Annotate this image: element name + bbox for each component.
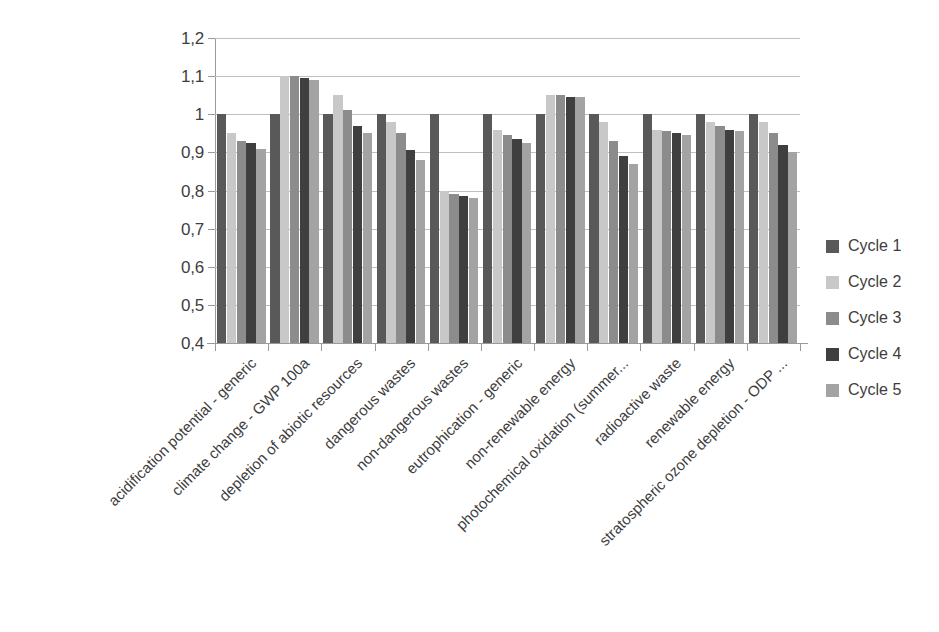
bar[interactable]: [270, 114, 279, 343]
bar[interactable]: [522, 143, 531, 343]
bar[interactable]: [662, 131, 671, 343]
bar[interactable]: [643, 114, 652, 343]
bar[interactable]: [735, 131, 744, 343]
legend-item[interactable]: Cycle 2: [826, 264, 936, 300]
x-tick-mark: [694, 343, 695, 351]
bar[interactable]: [333, 95, 342, 343]
bar[interactable]: [217, 114, 226, 343]
legend-swatch-icon: [826, 348, 839, 361]
legend-label: Cycle 4: [848, 346, 901, 362]
y-tick-label: 0,7: [140, 221, 204, 238]
bar[interactable]: [599, 122, 608, 343]
x-axis-label: climate change - GWP 100a: [0, 355, 312, 632]
bar[interactable]: [589, 114, 598, 343]
bar[interactable]: [290, 76, 299, 343]
x-tick-mark: [268, 343, 269, 351]
x-tick-mark: [640, 343, 641, 351]
bar[interactable]: [672, 133, 681, 343]
legend-item[interactable]: Cycle 1: [826, 228, 936, 264]
bar[interactable]: [493, 130, 502, 344]
bar[interactable]: [575, 97, 584, 343]
y-tick-mark: [208, 76, 215, 77]
bar[interactable]: [323, 114, 332, 343]
bar[interactable]: [377, 114, 386, 343]
bar-group: [589, 38, 638, 343]
bar[interactable]: [536, 114, 545, 343]
x-tick-mark: [375, 343, 376, 351]
legend-label: Cycle 1: [848, 238, 901, 254]
bar[interactable]: [246, 143, 255, 343]
y-tick-mark: [208, 305, 215, 306]
y-axis: 1,21,110,90,80,70,60,50,4: [140, 26, 204, 352]
y-tick-mark: [208, 343, 215, 344]
bar[interactable]: [483, 114, 492, 343]
bar[interactable]: [556, 95, 565, 343]
bar[interactable]: [256, 149, 265, 343]
bar[interactable]: [715, 126, 724, 343]
bar[interactable]: [725, 130, 734, 344]
bar[interactable]: [416, 160, 425, 343]
legend-item[interactable]: Cycle 4: [826, 336, 936, 372]
bar[interactable]: [237, 141, 246, 343]
bar-group: [483, 38, 532, 343]
bar[interactable]: [503, 135, 512, 343]
bar[interactable]: [749, 114, 758, 343]
bar[interactable]: [778, 145, 787, 343]
bar[interactable]: [449, 194, 458, 343]
bar[interactable]: [440, 191, 449, 344]
x-tick-mark: [321, 343, 322, 351]
y-tick-mark: [208, 38, 215, 39]
x-tick-mark: [800, 343, 801, 351]
y-tick-label: 1: [140, 106, 204, 123]
bar[interactable]: [609, 141, 618, 343]
bar-group: [696, 38, 745, 343]
legend-item[interactable]: Cycle 3: [826, 300, 936, 336]
bar[interactable]: [469, 198, 478, 343]
bar[interactable]: [343, 110, 352, 343]
y-tick-label: 1,2: [140, 30, 204, 47]
legend-item[interactable]: Cycle 5: [826, 372, 936, 408]
bar[interactable]: [629, 164, 638, 343]
bar-group: [749, 38, 798, 343]
bar[interactable]: [759, 122, 768, 343]
legend-swatch-icon: [826, 276, 839, 289]
bar[interactable]: [512, 139, 521, 343]
bar-group: [323, 38, 372, 343]
legend-label: Cycle 5: [848, 382, 901, 398]
bar[interactable]: [459, 196, 468, 343]
legend-swatch-icon: [826, 240, 839, 253]
y-tick-label: 0,6: [140, 259, 204, 276]
bar[interactable]: [696, 114, 705, 343]
bar[interactable]: [227, 133, 236, 343]
bar[interactable]: [788, 152, 797, 343]
bar-group: [430, 38, 479, 343]
bar[interactable]: [566, 97, 575, 343]
bar[interactable]: [353, 126, 362, 343]
x-tick-mark: [534, 343, 535, 351]
legend-swatch-icon: [826, 312, 839, 325]
bar[interactable]: [706, 122, 715, 343]
legend-label: Cycle 2: [848, 274, 901, 290]
bar[interactable]: [430, 114, 439, 343]
x-tick-mark: [747, 343, 748, 351]
y-tick-label: 1,1: [140, 68, 204, 85]
y-tick-mark: [208, 152, 215, 153]
legend-label: Cycle 3: [848, 310, 901, 326]
x-axis-line: [207, 343, 808, 344]
bar-group: [643, 38, 692, 343]
bar-chart: 1,21,110,90,80,70,60,50,4 acidification …: [0, 0, 939, 632]
bar[interactable]: [769, 133, 778, 343]
bar[interactable]: [652, 130, 661, 344]
bar[interactable]: [619, 156, 628, 343]
bar[interactable]: [280, 76, 289, 343]
x-tick-mark: [587, 343, 588, 351]
bar[interactable]: [309, 80, 318, 343]
plot-area: [215, 38, 800, 343]
bar[interactable]: [363, 133, 372, 343]
bar[interactable]: [386, 122, 395, 343]
bar[interactable]: [682, 135, 691, 343]
bar[interactable]: [546, 95, 555, 343]
bar[interactable]: [300, 78, 309, 343]
bar[interactable]: [396, 133, 405, 343]
bar[interactable]: [406, 150, 415, 343]
